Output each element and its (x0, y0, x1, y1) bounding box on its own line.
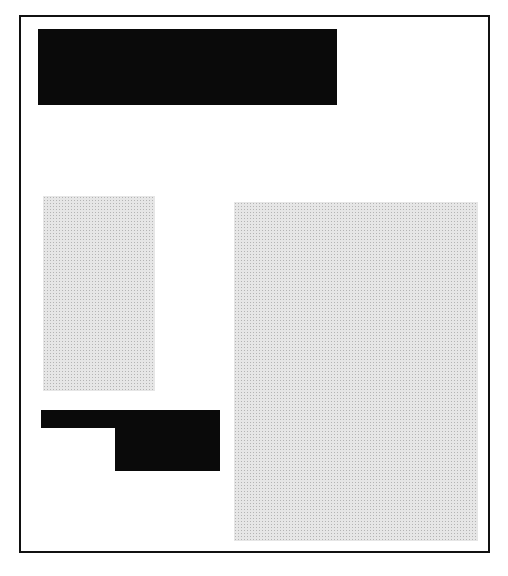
l-shape-bottom-block (115, 410, 220, 471)
left-image-block (43, 196, 155, 391)
right-image-block (234, 202, 478, 541)
headline-bar (38, 29, 337, 105)
